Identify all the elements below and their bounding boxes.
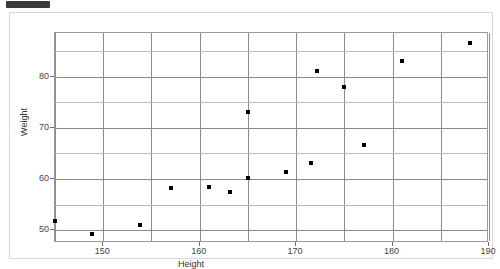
data-point	[342, 85, 346, 89]
gridline-horizontal	[55, 128, 487, 129]
data-point	[169, 186, 173, 190]
gridline-horizontal-minor	[55, 205, 487, 206]
data-point	[246, 176, 250, 180]
data-point	[315, 69, 319, 73]
plot-area	[54, 32, 488, 242]
data-point	[284, 170, 288, 174]
data-point	[228, 190, 232, 194]
y-tick-mark	[50, 76, 54, 77]
toolbar-nub	[6, 1, 50, 8]
y-tick-label: 70	[35, 122, 49, 132]
gridline-vertical	[393, 33, 394, 241]
y-tick-mark	[50, 229, 54, 230]
y-tick-label: 50	[35, 224, 49, 234]
x-tick-label: 150	[95, 246, 110, 256]
x-tick-mark	[102, 242, 103, 246]
gridline-horizontal-minor	[55, 153, 487, 154]
gridline-vertical	[441, 33, 442, 241]
x-tick-mark	[488, 242, 489, 246]
gridline-vertical	[55, 33, 56, 241]
data-point	[309, 161, 313, 165]
gridline-vertical	[489, 33, 490, 241]
y-axis-title: Weight	[19, 102, 29, 142]
figure-card: 15016017018019050607080 Height Weight	[9, 12, 493, 259]
x-axis-title: Height	[178, 259, 204, 269]
data-point	[246, 110, 250, 114]
gridline-horizontal-minor	[55, 51, 487, 52]
data-point	[138, 223, 142, 227]
y-tick-mark	[50, 127, 54, 128]
x-tick-mark	[295, 242, 296, 246]
x-tick-label: 190	[480, 246, 495, 256]
gridline-vertical	[344, 33, 345, 241]
data-point	[90, 232, 94, 236]
x-tick-label: 160	[191, 246, 206, 256]
x-tick-mark	[199, 242, 200, 246]
gridline-vertical	[248, 33, 249, 241]
gridline-vertical	[296, 33, 297, 241]
gridline-vertical	[200, 33, 201, 241]
gridline-horizontal	[55, 179, 487, 180]
y-tick-label: 80	[35, 71, 49, 81]
gridline-horizontal	[55, 77, 487, 78]
gridline-horizontal-minor	[55, 102, 487, 103]
gridline-horizontal	[55, 230, 487, 231]
data-point	[468, 41, 472, 45]
x-tick-label: 180	[384, 246, 399, 256]
gridline-vertical	[151, 33, 152, 241]
data-point	[53, 219, 57, 223]
data-point	[207, 185, 211, 189]
y-tick-label: 60	[35, 173, 49, 183]
data-point	[400, 59, 404, 63]
x-tick-mark	[392, 242, 393, 246]
data-point	[362, 143, 366, 147]
x-tick-label: 170	[288, 246, 303, 256]
gridline-vertical	[103, 33, 104, 241]
y-tick-mark	[50, 178, 54, 179]
